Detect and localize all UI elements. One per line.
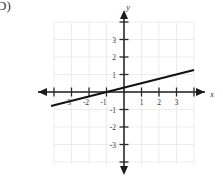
x-tick-label: 2 — [157, 98, 161, 107]
x-axis-label: x — [209, 90, 214, 99]
coordinate-plane-chart: -3 -2 -1 1 2 3 3 2 1 -1 -2 -3 x y — [0, 0, 223, 177]
x-axis-arrow-right-icon — [196, 88, 205, 96]
y-axis-label: y — [125, 3, 130, 12]
y-tick-label: -3 — [110, 141, 116, 150]
x-axis-arrow-left-icon — [38, 88, 47, 96]
y-tick-label: -1 — [110, 106, 116, 115]
x-tick-label: -2 — [83, 98, 89, 107]
data-line-segment — [51, 70, 194, 106]
y-tick-label: 3 — [112, 36, 116, 45]
y-tick-label: 1 — [112, 71, 116, 80]
x-tick-label: -3 — [65, 98, 71, 107]
y-tick-label: 2 — [112, 53, 116, 62]
x-tick-label: 1 — [140, 98, 144, 107]
x-tick-label: -1 — [100, 98, 106, 107]
plotted-line-series — [51, 70, 194, 106]
figure-container: D) — [0, 0, 223, 177]
x-tick-label: 3 — [175, 98, 179, 107]
y-axis-arrow-down-icon — [120, 166, 128, 175]
axes — [38, 10, 205, 175]
y-tick-label: -2 — [110, 123, 116, 132]
